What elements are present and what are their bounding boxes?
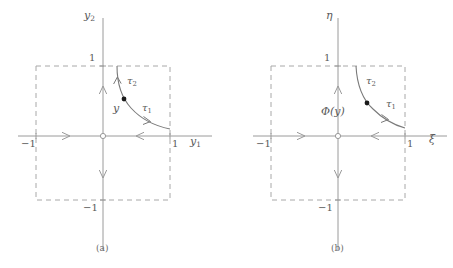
tau-1-label: τ1: [142, 103, 152, 115]
x-tick-label-positive: 1: [172, 139, 178, 149]
panel-a-plot: [0, 0, 227, 268]
panel-b-caption: (b): [331, 243, 344, 253]
marked-point: [365, 101, 370, 106]
y-tick-label-positive: 1: [324, 53, 330, 63]
x-axis-label: ξ: [429, 134, 435, 147]
panel-b-plot: [226, 0, 453, 268]
origin-marker: [100, 133, 105, 138]
tau-2-label: τ2: [366, 76, 376, 88]
panel-a: y2 y1 1 −1 1 −1 τ2 τ1 y (a): [0, 0, 227, 268]
y-axis-label: η: [326, 10, 333, 23]
tau-2-label: τ2: [127, 76, 137, 88]
tau-1-label: τ1: [386, 99, 396, 111]
panel-b: η ξ 1 −1 1 −1 τ2 τ1 Φ(y) (b): [226, 0, 453, 268]
x-tick-label-negative: −1: [21, 139, 36, 149]
y-tick-label-negative: −1: [83, 203, 98, 213]
panel-a-caption: (a): [96, 243, 108, 253]
trajectory-curve: [356, 66, 405, 128]
point-label: Φ(y): [321, 106, 345, 117]
y-tick-label-negative: −1: [318, 203, 333, 213]
x-tick-label-positive: 1: [407, 139, 413, 149]
marked-point: [122, 97, 127, 102]
figure-canvas: y2 y1 1 −1 1 −1 τ2 τ1 y (a): [0, 0, 453, 268]
x-axis-label: y1: [190, 136, 201, 149]
point-label: y: [113, 103, 119, 114]
y-tick-label-positive: 1: [89, 53, 95, 63]
origin-marker: [335, 133, 340, 138]
x-tick-label-negative: −1: [256, 139, 271, 149]
y-axis-label: y2: [84, 10, 95, 23]
